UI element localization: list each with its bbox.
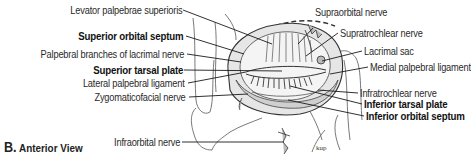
label-lacrimal-sac: Lacrimal sac xyxy=(364,45,414,57)
label-inferior-orbital-septum: Inferior orbital septum xyxy=(366,110,465,122)
label-palpebral-branches-lacrimal-nerve: Palpebral branches of lacrimal nerve xyxy=(40,48,184,60)
label-inferior-tarsal-plate: Inferior tarsal plate xyxy=(364,98,447,110)
label-zygomaticofacial-nerve: Zygomaticofacial nerve xyxy=(95,91,186,103)
label-superior-orbital-septum: Superior orbital septum xyxy=(78,30,183,42)
label-superior-tarsal-plate: Superior tarsal plate xyxy=(93,64,183,76)
label-levator-palpebrae-superioris: Levator palpebrae superioris xyxy=(70,4,182,16)
label-infraorbital-nerve: Infraorbital nerve xyxy=(114,136,180,148)
label-supratrochlear-nerve: Supratrochlear nerve xyxy=(340,27,423,39)
artist-signature: kup xyxy=(316,144,327,152)
label-medial-palpebral-ligament: Medial palpebral ligament xyxy=(370,61,471,73)
view-title: Anterior View xyxy=(19,142,83,154)
label-lateral-palpebral-ligament: Lateral palpebral ligament xyxy=(83,77,185,89)
orbit-ring xyxy=(228,23,343,115)
label-supraorbital-nerve: Supraorbital nerve xyxy=(315,6,387,18)
figure-caption: B. Anterior View xyxy=(4,139,83,155)
view-letter: B. xyxy=(4,139,17,155)
